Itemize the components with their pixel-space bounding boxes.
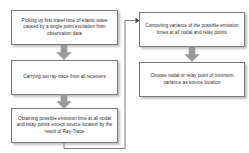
node-picking-travel-time: Picking up first travel time of elastic … xyxy=(11,10,118,45)
arrow-down-icon-ray-to-emission xyxy=(56,94,72,109)
block-arrow-shape xyxy=(57,94,71,109)
node-computing-variance: Computing variance of the possible emiss… xyxy=(139,12,245,47)
node-carrying-ray-trace: Carrying out ray-trace from all receiver… xyxy=(11,60,118,95)
node-label: Computing variance of the possible emiss… xyxy=(143,23,241,35)
arrow-down-icon-variance-to-choose xyxy=(184,47,200,62)
node-choose-source-location: Choose nodal or relay point of minimum v… xyxy=(139,62,245,97)
flowchart-diagram: Picking up first travel time of elastic … xyxy=(0,0,249,153)
node-label: Choose nodal or relay point of minimum v… xyxy=(143,73,241,85)
arrow-down-icon-pick-to-ray xyxy=(56,45,72,60)
node-label: Picking up first travel time of elastic … xyxy=(15,18,114,37)
node-label: Carrying out ray-trace from all receiver… xyxy=(23,74,106,80)
block-arrow-shape xyxy=(185,47,199,62)
block-arrow-shape xyxy=(57,45,71,60)
node-obtaining-emission-time: Obtaining possible emission time at all … xyxy=(11,108,118,143)
node-label: Obtaining possible emission time at all … xyxy=(15,116,114,135)
